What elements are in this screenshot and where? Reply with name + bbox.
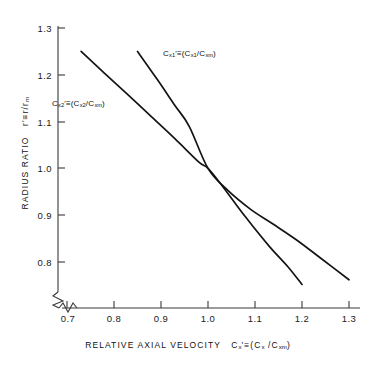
x-axis-title-slash: /C [265,340,279,350]
x-tick-label-1-0: 1.0 [201,313,215,324]
x-tick-label-0-8: 0.8 [107,313,121,324]
annotation-cx1-close: ) [213,49,216,58]
y-tick-label-0-8: 0.8 [28,257,52,268]
x-axis-title-sub-b: xm [279,343,287,350]
annotation-cx2-sub3: xm [94,102,102,108]
y-axis-ticks [58,28,65,262]
y-axis-title-ratio-sub: m [23,97,30,102]
chart-figure: 1.3 1.2 1.1 1.0 0.9 0.8 0.7 0.8 0.9 1.0 … [0,0,376,367]
annotation-cx2-close: ) [102,99,105,108]
y-tick-label-1-1: 1.1 [28,117,52,128]
y-tick-label-1-2: 1.2 [28,70,52,81]
x-axis-title-open: (C [250,340,261,350]
y-tick-label-1-0: 1.0 [28,163,52,174]
x-axis-ticks [67,301,349,308]
x-tick-label-1-2: 1.2 [295,313,309,324]
y-axis-title-prime: ' [20,119,30,122]
y-axis-title-ratio: r/r [20,102,30,113]
x-tick-label-0-9: 0.9 [154,313,168,324]
y-tick-label-0-9: 0.9 [28,210,52,221]
y-axis-title: RADIUS RATIO r'≡r/rm [20,53,30,253]
y-axis-title-words: RADIUS RATIO [20,136,30,209]
x-axis-title-words: RELATIVE AXIAL VELOCITY [85,340,221,350]
annotation-cx1-open: (C [182,49,191,58]
x-tick-label-1-1: 1.1 [248,313,262,324]
x-axis-title-close: ) [287,340,291,350]
x-tick-label-0-7: 0.7 [61,313,75,324]
data-series-group [81,51,349,284]
curve-annotation-cx2: Cx2'≡(Cx2/Cxm) [52,99,105,108]
data-curve-cx2 [81,51,302,284]
y-axis-title-equiv: ≡ [20,113,30,119]
curve-annotation-cx1: Cx1'≡(Cx1/Cxm) [163,49,216,58]
data-curve-cx1 [138,51,350,279]
y-tick-label-1-3: 1.3 [28,23,52,34]
annotation-cx1-sub3: xm [205,52,213,58]
x-tick-label-1-3: 1.3 [342,313,356,324]
y-axis-title-symbol: r [20,122,30,126]
annotation-cx2-open: (C [71,99,80,108]
x-axis-title: RELATIVE AXIAL VELOCITY Cx'≡(Cx /Cxm) [0,340,376,350]
